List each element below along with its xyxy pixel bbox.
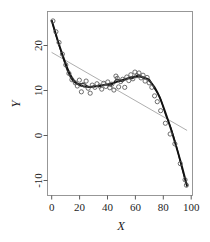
scatter-plot: 20 10 0 -10 Y 0 20 40 60 80 100 X [0, 0, 210, 242]
x-tick-label-40: 40 [102, 201, 114, 213]
x-tick-label-60: 60 [130, 201, 142, 213]
plot-frame [48, 12, 193, 196]
data-point [100, 87, 104, 91]
x-tick-label-20: 20 [74, 201, 86, 213]
y-tick-label-10: 10 [32, 85, 44, 97]
y-tick-label-neg10: -10 [32, 173, 44, 188]
data-point [123, 85, 127, 89]
y-axis-title: Y [9, 98, 23, 107]
y-tick-label-0: 0 [32, 132, 44, 138]
smooth-fit-curve [52, 20, 188, 186]
y-axis-ticks [44, 46, 48, 181]
data-point [152, 94, 156, 98]
smooth-fit-path [52, 20, 188, 186]
data-point [84, 79, 88, 83]
wiggly-fit-curve [52, 20, 188, 187]
data-point [79, 90, 83, 94]
figure-container: 20 10 0 -10 Y 0 20 40 60 80 100 X [0, 0, 210, 242]
data-point [129, 73, 133, 77]
data-point [88, 91, 92, 95]
wiggly-fit-path [52, 20, 188, 187]
data-point [117, 85, 121, 89]
data-points-group [51, 19, 189, 187]
x-axis-ticks [52, 196, 192, 200]
data-point [155, 100, 159, 104]
x-tick-label-0: 0 [49, 201, 55, 213]
data-point [159, 109, 163, 113]
x-tick-label-100: 100 [183, 201, 200, 213]
data-point [77, 78, 81, 82]
y-tick-label-20: 20 [32, 40, 44, 52]
x-tick-label-80: 80 [158, 201, 170, 213]
data-point [163, 121, 167, 125]
x-axis-title: X [116, 219, 126, 233]
